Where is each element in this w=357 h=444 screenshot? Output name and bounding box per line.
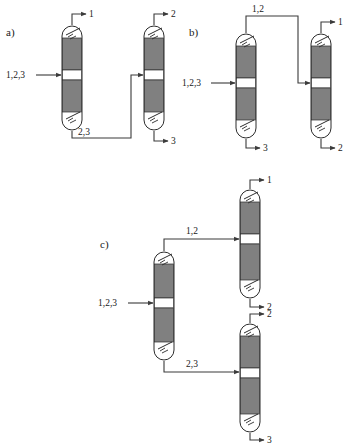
column-a1-feed-tray xyxy=(63,70,82,80)
stream-a-col2-top xyxy=(154,14,168,25)
column-c3-lower-packing xyxy=(241,378,260,414)
stream-c-col3-top xyxy=(250,314,264,323)
distillation-sequences-figure: a) 1 1,2,3 2,3 xyxy=(0,0,357,444)
panel-b: b) 1,2,3 1,2 3 xyxy=(182,4,343,153)
column-b1-feed-tray xyxy=(237,78,256,88)
column-c2-lower-packing xyxy=(241,244,260,280)
stream-c-connector-top xyxy=(164,239,239,251)
stream-a-col1-top-label: 1 xyxy=(89,9,94,19)
stream-b-col1-bottom xyxy=(246,139,260,148)
stream-b-col2-bottom xyxy=(321,139,335,148)
stream-a-connector-label: 2,3 xyxy=(78,127,90,137)
column-c3-upper-packing xyxy=(241,336,260,368)
column-b1-upper-packing xyxy=(237,46,256,78)
column-a1-upper-packing xyxy=(63,38,82,70)
stream-b-col1-bottom-label: 3 xyxy=(263,143,268,153)
panel-c: c) 1,2,3 1,2 2,3 xyxy=(98,175,272,444)
stream-c-connector-top-label: 1,2 xyxy=(186,226,198,236)
column-a2 xyxy=(144,26,164,130)
stream-a-col2-bottom xyxy=(154,131,168,141)
feed-c-label: 1,2,3 xyxy=(98,298,117,308)
panel-b-label: b) xyxy=(189,26,199,39)
column-b2-upper-packing xyxy=(312,46,331,78)
column-c3-feed-tray xyxy=(241,368,260,378)
stream-c-col3-bottom xyxy=(250,433,264,440)
panel-a: a) 1 1,2,3 2,3 xyxy=(6,9,176,146)
column-a1 xyxy=(62,26,82,130)
column-a2-feed-tray xyxy=(145,70,164,80)
stream-a-col1-top xyxy=(72,14,86,25)
stream-a-col2-bottom-label: 3 xyxy=(171,136,176,146)
stream-c-col2-top-label: 1 xyxy=(267,175,272,185)
column-c2-feed-tray xyxy=(241,234,260,244)
column-b2-lower-packing xyxy=(312,88,331,120)
stream-c-col2-bottom xyxy=(250,299,264,307)
panel-c-label: c) xyxy=(100,238,109,251)
column-c1-prefractionator xyxy=(154,252,174,360)
column-c2-upper xyxy=(240,190,260,298)
column-a1-lower-packing xyxy=(63,80,82,112)
feed-b-label: 1,2,3 xyxy=(182,78,201,88)
stream-c-connector-bottom xyxy=(164,361,239,372)
stream-b-col2-bottom-label: 2 xyxy=(338,143,343,153)
panel-a-label: a) xyxy=(6,26,15,39)
stream-b-col2-top xyxy=(321,22,335,33)
column-c1-upper-packing xyxy=(155,264,174,298)
column-c2-upper-packing xyxy=(241,202,260,234)
stream-c-col3-top-label: 2 xyxy=(267,309,272,319)
column-c1-lower-packing xyxy=(155,308,174,342)
feed-a-label: 1,2,3 xyxy=(6,70,25,80)
column-b1 xyxy=(236,34,256,138)
column-b2-feed-tray xyxy=(312,78,331,88)
stream-a-col2-top-label: 2 xyxy=(171,9,176,19)
column-c3-lower xyxy=(240,324,260,432)
column-a2-lower-packing xyxy=(145,80,164,112)
stream-b-connector-label: 1,2 xyxy=(252,4,264,14)
stream-c-connector-bottom-label: 2,3 xyxy=(186,359,198,369)
column-c1-feed-tray xyxy=(155,298,174,308)
column-b1-lower-packing xyxy=(237,88,256,120)
stream-c-col3-bottom-label: 3 xyxy=(267,435,272,444)
column-a2-upper-packing xyxy=(145,38,164,70)
stream-b-col2-top-label: 1 xyxy=(338,17,343,27)
stream-c-col2-top xyxy=(250,180,264,189)
column-b2 xyxy=(311,34,331,138)
